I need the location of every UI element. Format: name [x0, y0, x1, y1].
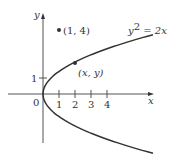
- diagram-svg: y x 0 1 2 3 4 1 (1, 4) (x, y) y2 = 2x: [0, 0, 176, 167]
- point-x-y-dot: [73, 61, 77, 65]
- y-axis-label: y: [33, 9, 40, 20]
- x-tick-label-1: 1: [56, 99, 62, 110]
- point-1-4-label: (1, 4): [63, 25, 90, 36]
- x-tick-label-4: 4: [104, 99, 110, 110]
- origin-label: 0: [33, 97, 39, 108]
- y-axis-arrow-icon: [41, 13, 45, 19]
- point-1-4-dot: [57, 28, 61, 32]
- x-tick-label-3: 3: [88, 99, 94, 110]
- point-x-y-label: (x, y): [78, 67, 104, 78]
- x-axis-label: x: [148, 95, 154, 106]
- parabola-diagram: y x 0 1 2 3 4 1 (1, 4) (x, y) y2 = 2x: [0, 0, 176, 167]
- equation-label: y2 = 2x: [127, 21, 167, 36]
- y-tick-label-1: 1: [31, 73, 37, 84]
- x-tick-label-2: 2: [72, 99, 78, 110]
